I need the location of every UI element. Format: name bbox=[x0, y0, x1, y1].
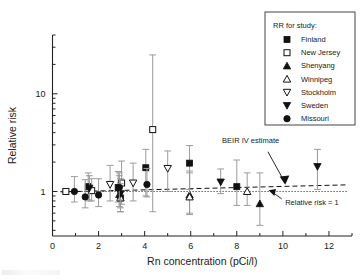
legend-label-shenyang: Shenyang bbox=[301, 61, 335, 70]
data-point-missouri-0 bbox=[71, 177, 78, 202]
reference-line-0 bbox=[61, 185, 349, 192]
legend-label-winnipeg: Winnipeg bbox=[301, 75, 332, 84]
legend-item-missouri bbox=[284, 116, 290, 122]
data-point-winnipeg-1 bbox=[186, 173, 193, 213]
x-tick-label-0: 0 bbox=[50, 241, 55, 251]
data-point-missouri-2 bbox=[95, 179, 102, 207]
data-point-stockholm-1 bbox=[129, 163, 136, 201]
legend-label-new-jersey: New Jersey bbox=[301, 48, 340, 57]
page-edge-artifact bbox=[2, 270, 60, 275]
annotation-relative-risk-1: Relative risk = 1 bbox=[285, 198, 339, 207]
legend-label-sweden: Sweden bbox=[301, 101, 328, 110]
data-point-stockholm-2 bbox=[164, 151, 171, 192]
data-point-missouri-4 bbox=[144, 168, 151, 196]
data-point-new-jersey-0 bbox=[63, 188, 69, 194]
annotation-arrowhead-beir-iv bbox=[280, 175, 290, 184]
annotation-beir-iv: BEIR IV estimate bbox=[222, 136, 279, 145]
legend-label-finland: Finland bbox=[301, 35, 326, 44]
data-point-finland-3 bbox=[142, 149, 149, 196]
y-axis-label: Relative risk bbox=[6, 106, 18, 164]
x-tick-label-4: 4 bbox=[142, 241, 147, 251]
annotation-arrowhead-rr1 bbox=[269, 189, 276, 196]
legend-title: RR for study: bbox=[273, 21, 317, 30]
data-point-sweden-2 bbox=[217, 169, 224, 194]
x-axis-label: Rn concentration (pCi/l) bbox=[147, 255, 257, 267]
legend-item-new-jersey bbox=[284, 50, 290, 56]
legend-label-missouri: Missouri bbox=[301, 114, 329, 123]
data-point-shenyang-2 bbox=[256, 173, 263, 225]
x-tick-label-2: 2 bbox=[96, 241, 101, 251]
x-tick-label-10: 10 bbox=[278, 241, 288, 251]
legend-label-stockholm: Stockholm bbox=[301, 88, 336, 97]
x-tick-label-8: 8 bbox=[234, 241, 239, 251]
x-tick-label-12: 12 bbox=[324, 241, 334, 251]
data-point-stockholm-0 bbox=[106, 165, 113, 201]
chart-canvas: 024681012Rn concentration (pCi/l)110Rela… bbox=[0, 0, 364, 280]
legend-item-finland bbox=[284, 37, 290, 43]
data-point-winnipeg-2 bbox=[243, 173, 250, 206]
relative-risk-scatter-figure: 024681012Rn concentration (pCi/l)110Rela… bbox=[0, 0, 364, 280]
data-point-finland-5 bbox=[233, 160, 240, 205]
x-tick-label-6: 6 bbox=[188, 241, 193, 251]
data-point-new-jersey-3 bbox=[149, 55, 156, 212]
data-point-sweden-3 bbox=[314, 149, 321, 189]
y-tick-label-10: 10 bbox=[35, 89, 45, 99]
y-tick-label-1: 1 bbox=[40, 187, 45, 197]
